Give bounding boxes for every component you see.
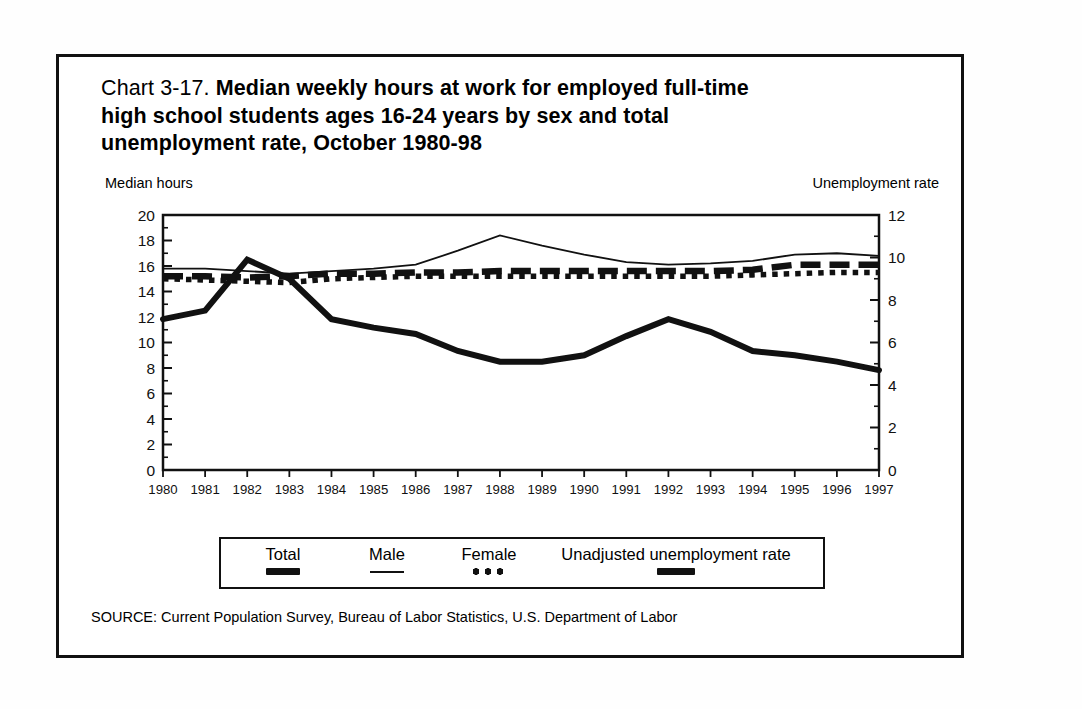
legend-item-unemployment: Unadjusted unemployment rate — [537, 545, 815, 575]
chart-frame: Chart 3-17. Median weekly hours at work … — [56, 54, 964, 658]
plot-area: 02468101214161820 024681012 198019811982… — [103, 205, 939, 505]
chart-title: Chart 3-17. Median weekly hours at work … — [101, 75, 931, 158]
chart-page: Chart 3-17. Median weekly hours at work … — [0, 0, 1082, 709]
source-note: SOURCE: Current Population Survey, Burea… — [91, 609, 677, 625]
right-tick-label: 8 — [888, 292, 897, 309]
left-tick-label: 4 — [146, 411, 155, 428]
x-tick-label: 1985 — [359, 482, 388, 497]
x-tick-label: 1982 — [233, 482, 262, 497]
left-tick-label: 8 — [146, 360, 155, 377]
left-tick-label: 6 — [146, 385, 155, 402]
legend-swatch-total — [266, 568, 300, 575]
x-tick-label: 1993 — [696, 482, 725, 497]
left-axis-ticks: 02468101214161820 — [138, 207, 172, 479]
legend-label-total: Total — [235, 545, 331, 564]
legend-swatch-unemployment — [657, 568, 695, 575]
x-tick-label: 1995 — [780, 482, 809, 497]
series-line-female — [163, 272, 879, 282]
legend-label-male: Male — [339, 545, 435, 564]
x-tick-label: 1981 — [190, 482, 219, 497]
x-tick-label: 1984 — [317, 482, 346, 497]
x-tick-label: 1997 — [864, 482, 893, 497]
x-tick-label: 1989 — [527, 482, 556, 497]
x-tick-label: 1996 — [822, 482, 851, 497]
x-tick-label: 1983 — [275, 482, 304, 497]
legend-item-female: Female — [439, 545, 539, 575]
left-tick-label: 0 — [146, 462, 155, 479]
x-tick-label: 1992 — [654, 482, 683, 497]
right-tick-label: 10 — [888, 249, 906, 266]
x-tick-label: 1990 — [570, 482, 599, 497]
right-tick-label: 12 — [888, 207, 905, 224]
x-tick-label: 1986 — [401, 482, 430, 497]
left-tick-label: 12 — [138, 309, 155, 326]
legend-item-total: Total — [235, 545, 331, 575]
plot-border — [163, 215, 879, 470]
left-tick-label: 18 — [138, 232, 155, 249]
x-tick-label: 1988 — [485, 482, 514, 497]
title-line-3: unemployment rate, October 1980-98 — [101, 130, 931, 158]
x-tick-label: 1991 — [612, 482, 641, 497]
right-tick-label: 6 — [888, 334, 897, 351]
right-tick-label: 0 — [888, 462, 897, 479]
legend-swatch-male — [370, 571, 404, 573]
left-tick-label: 10 — [138, 334, 156, 351]
title-line-1: Chart 3-17. Median weekly hours at work … — [101, 75, 931, 103]
x-tick-label: 1994 — [738, 482, 767, 497]
right-tick-label: 2 — [888, 419, 897, 436]
x-tick-label: 1987 — [443, 482, 472, 497]
data-series-group — [163, 235, 879, 370]
left-tick-label: 20 — [138, 207, 156, 224]
right-tick-label: 4 — [888, 377, 897, 394]
x-axis-ticks: 1980198119821983198419851986198719881989… — [148, 470, 893, 497]
title-line-2: high school students ages 16-24 years by… — [101, 103, 931, 131]
legend-item-male: Male — [339, 545, 435, 573]
right-axis-ticks: 024681012 — [870, 207, 906, 479]
legend-label-unemployment: Unadjusted unemployment rate — [537, 545, 815, 564]
left-axis-caption: Median hours — [105, 175, 193, 191]
chart-number: Chart 3-17. — [101, 76, 210, 100]
left-tick-label: 2 — [146, 436, 155, 453]
legend-label-female: Female — [439, 545, 539, 564]
chart-legend: Total Male Female Unadjusted unemploymen… — [219, 537, 825, 589]
left-tick-label: 16 — [138, 258, 155, 275]
right-axis-caption: Unemployment rate — [812, 175, 939, 191]
title-text-1: Median weekly hours at work for employed… — [216, 76, 749, 100]
chart-svg: 02468101214161820 024681012 198019811982… — [103, 205, 939, 505]
left-tick-label: 14 — [138, 283, 156, 300]
x-tick-label: 1980 — [148, 482, 177, 497]
legend-swatch-female — [472, 568, 506, 575]
